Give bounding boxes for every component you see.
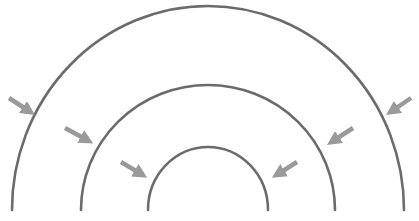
arrow-icon-left-middle [65,128,87,140]
arrow-icon-left-outer [9,98,29,111]
diagram-canvas [0,0,419,221]
arcs-group [12,6,404,210]
arrow-icon-right-inner [278,162,297,174]
arrow-icon-right-middle [333,128,353,141]
arrow-icon-left-inner [121,162,141,174]
arrows-group [9,98,411,174]
concentric-arcs-diagram [0,0,419,221]
arrow-icon-right-outer [392,98,411,111]
inner-arc [148,147,268,210]
outer-arc [12,6,404,210]
